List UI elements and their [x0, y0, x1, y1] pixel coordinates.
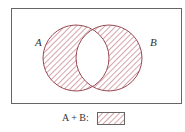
legend-swatch	[98, 113, 125, 125]
venn-diagram	[0, 0, 185, 132]
set-label-a: A	[35, 36, 42, 48]
legend-label: A + B:	[62, 112, 89, 123]
set-label-b: B	[150, 36, 157, 48]
